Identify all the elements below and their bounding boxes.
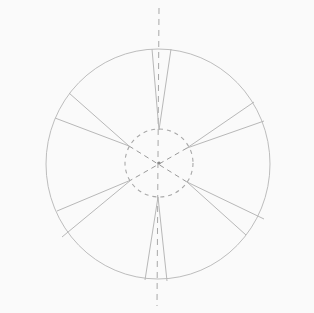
radial-line-lower-right-2 (187, 182, 246, 235)
radial-line-bottom-wedge-right (158, 197, 167, 281)
vertical-axis (157, 8, 159, 306)
radial-line-upper-right-2 (187, 121, 264, 148)
drawing-canvas (0, 0, 314, 313)
radial-line-upper-left-1 (69, 93, 129, 146)
radial-line-top-wedge-right (159, 49, 171, 130)
radial-lines (55, 49, 264, 281)
radial-line-top-wedge-left (152, 49, 159, 130)
radial-line-lower-left-1 (57, 180, 131, 211)
radial-line-lower-right-1 (187, 182, 264, 219)
center-point (157, 161, 160, 164)
radial-line-upper-right-1 (187, 102, 254, 148)
radial-line-lower-left-2 (62, 180, 131, 237)
radial-line-bottom-wedge-left (145, 197, 158, 280)
radial-line-upper-left-2 (55, 118, 129, 146)
circle-diagram (0, 0, 314, 313)
